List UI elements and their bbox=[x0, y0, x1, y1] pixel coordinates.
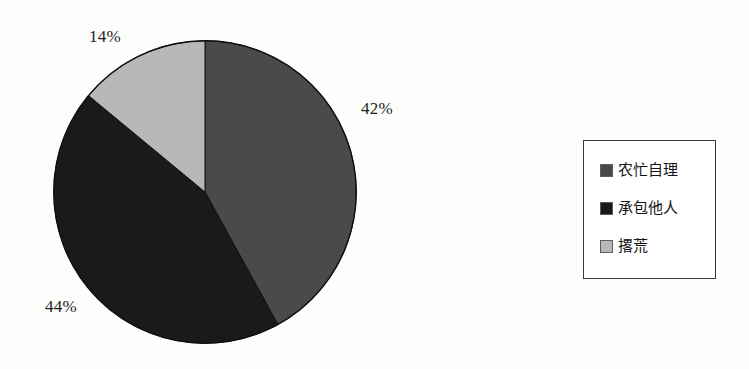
legend-item-label: 撂荒 bbox=[618, 238, 648, 254]
legend-item-list: 农忙自理 承包他人 撂荒 bbox=[600, 159, 709, 257]
pie-slice-group bbox=[54, 41, 356, 343]
legend-item-nongmangzili: 农忙自理 bbox=[600, 159, 709, 181]
pie-chart-svg bbox=[53, 39, 357, 345]
pie-data-label-42: 42% bbox=[361, 99, 393, 119]
legend-item-liaohuang: 撂荒 bbox=[600, 235, 709, 257]
legend-swatch-icon bbox=[600, 202, 613, 215]
legend-item-chengbaotaren: 承包他人 bbox=[600, 197, 709, 219]
legend-swatch-icon bbox=[600, 240, 613, 253]
legend-item-label: 承包他人 bbox=[618, 200, 678, 216]
pie-chart bbox=[53, 39, 357, 345]
chart-legend: 农忙自理 承包他人 撂荒 bbox=[583, 140, 716, 279]
chart-canvas: 14% 42% 44% 农忙自理 承包他人 撂荒 bbox=[0, 0, 749, 369]
legend-item-label: 农忙自理 bbox=[618, 162, 678, 178]
pie-data-label-44: 44% bbox=[45, 297, 77, 317]
pie-data-label-14: 14% bbox=[89, 27, 121, 47]
legend-swatch-icon bbox=[600, 164, 613, 177]
